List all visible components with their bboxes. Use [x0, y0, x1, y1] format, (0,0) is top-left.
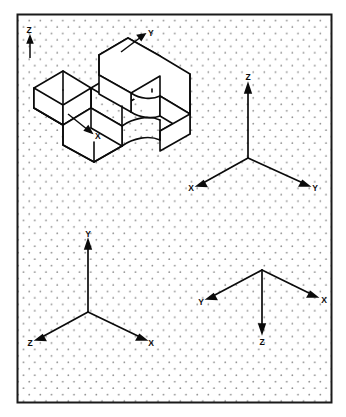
triad3-label-y: Y	[198, 297, 204, 307]
worksheet-sheet: Z Y X Z X Y Y Z X	[0, 0, 346, 417]
triad2-label-z: Z	[27, 338, 32, 348]
triad2-label-x: X	[148, 338, 154, 348]
object-axis-label-z: Z	[26, 25, 31, 35]
triad3-label-x: X	[321, 295, 327, 305]
triad1-label-x: X	[188, 183, 194, 193]
triad1-label-z: Z	[245, 72, 250, 82]
triad3-label-z: Z	[259, 337, 264, 347]
triad2-label-y: Y	[85, 229, 91, 239]
object-axis-label-x: X	[95, 131, 101, 141]
object-axis-label-y: Y	[148, 28, 154, 38]
worksheet-canvas: Z Y X Z X Y Y Z X	[0, 0, 346, 417]
triad1-label-y: Y	[312, 183, 318, 193]
